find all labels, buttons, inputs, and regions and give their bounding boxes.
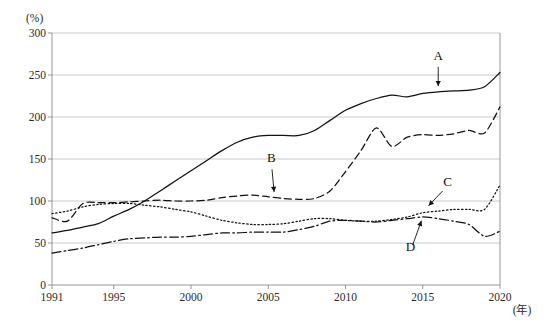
x-tick-label-1995: 1995 (102, 291, 125, 303)
y-tick-label-50: 50 (35, 237, 47, 249)
y-tick-label-0: 0 (40, 279, 46, 291)
y-tick-label-250: 250 (29, 69, 47, 81)
y-tick-label-150: 150 (29, 153, 47, 165)
x-axis-unit-label: (年) (513, 303, 532, 317)
line-chart: 050100150200250300 199119952000200520102… (0, 0, 546, 326)
y-tick-label-300: 300 (29, 27, 47, 39)
x-tick-label-2000: 2000 (180, 291, 203, 303)
y-tick-label-100: 100 (29, 195, 47, 207)
x-tick-label-2010: 2010 (334, 291, 357, 303)
series-label-C: C (443, 174, 452, 189)
x-tick-label-1991: 1991 (41, 291, 64, 303)
x-tick-label-2020: 2020 (489, 291, 512, 303)
x-tick-label-2005: 2005 (257, 291, 280, 303)
x-tick-label-2015: 2015 (411, 291, 434, 303)
series-label-B: B (267, 150, 276, 165)
y-axis-unit-label: (%) (26, 12, 43, 25)
y-tick-label-200: 200 (29, 111, 47, 123)
chart-canvas: 050100150200250300 199119952000200520102… (0, 0, 546, 326)
series-label-A: A (434, 48, 444, 63)
